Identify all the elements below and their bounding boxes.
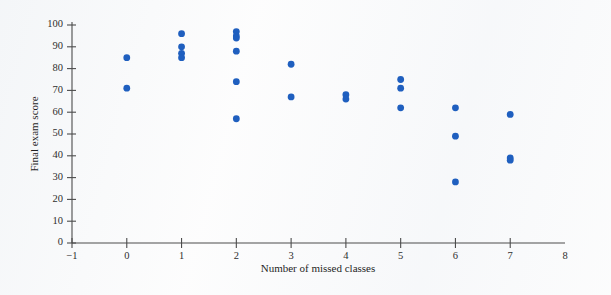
data-point	[452, 133, 459, 140]
data-point	[178, 30, 185, 37]
x-tick-label: 2	[234, 250, 239, 261]
data-point	[233, 35, 240, 42]
data-point	[288, 61, 295, 68]
data-point	[507, 111, 514, 118]
data-point	[452, 104, 459, 111]
data-point	[178, 43, 185, 50]
x-tick-label: 0	[124, 250, 129, 261]
x-tick-label: −1	[66, 250, 77, 261]
x-axis-title: Number of missed classes	[261, 262, 376, 274]
data-point	[233, 78, 240, 85]
data-point	[397, 85, 404, 92]
y-axis-title: Final exam score	[28, 96, 40, 171]
y-tick-label: 80	[53, 62, 64, 73]
y-tick-label: 20	[53, 193, 64, 204]
y-tick-label: 30	[53, 171, 64, 182]
data-point	[342, 96, 349, 103]
data-point	[123, 85, 130, 92]
data-point	[397, 76, 404, 83]
data-point	[288, 94, 295, 101]
y-tick-label: 60	[53, 106, 64, 117]
x-tick-label: 5	[398, 250, 403, 261]
x-tick-label: 3	[288, 250, 293, 261]
data-point-series	[123, 28, 513, 185]
x-axis-ticks: −1012345678	[66, 238, 567, 261]
x-tick-label: 6	[453, 250, 458, 261]
data-point	[178, 54, 185, 61]
data-point	[123, 54, 130, 61]
data-point	[452, 179, 459, 186]
data-point	[507, 157, 514, 164]
y-axis: 0102030405060708090100 Final exam score	[28, 18, 76, 247]
y-tick-label: 10	[53, 215, 64, 226]
scatter-plot-canvas: 0102030405060708090100 Final exam score …	[0, 0, 611, 295]
data-point	[397, 104, 404, 111]
x-tick-label: 1	[179, 250, 184, 261]
y-tick-label: 90	[53, 40, 64, 51]
y-tick-label: 100	[47, 18, 63, 29]
data-point	[233, 48, 240, 55]
y-tick-label: 70	[53, 84, 64, 95]
scatter-plot-figure: 0102030405060708090100 Final exam score …	[0, 0, 611, 295]
data-point	[233, 115, 240, 122]
x-tick-label: 8	[562, 250, 567, 261]
x-tick-label: 4	[343, 250, 349, 261]
x-axis: −1012345678 Number of missed classes	[66, 238, 567, 274]
y-tick-label: 40	[53, 149, 64, 160]
x-tick-label: 7	[508, 250, 513, 261]
y-tick-label: 0	[58, 236, 63, 247]
y-tick-label: 50	[53, 127, 64, 138]
